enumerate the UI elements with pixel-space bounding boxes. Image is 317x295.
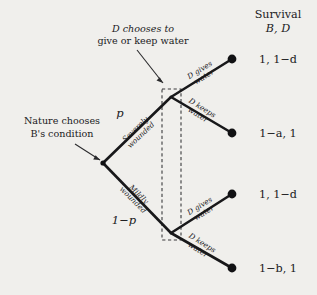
annotation-d-choice-line1: D chooses to xyxy=(111,23,174,34)
payoff-label-1: 1, 1−d xyxy=(259,53,297,66)
branch-label-severely-wounded: Severely wounded xyxy=(120,114,157,150)
terminal-node-2[interactable] xyxy=(228,129,237,138)
root-node-nature[interactable] xyxy=(100,160,105,165)
terminal-node-3[interactable] xyxy=(228,190,237,199)
annotation-nature-line2: B's condition xyxy=(30,128,93,139)
terminal-node-4[interactable] xyxy=(228,264,237,273)
probability-label-upper: p xyxy=(116,106,124,120)
payoff-label-4: 1−b, 1 xyxy=(259,262,297,275)
annotation-d-choice-arrow-head xyxy=(157,77,164,83)
payoff-label-2: 1−a, 1 xyxy=(259,127,296,140)
terminal-node-1[interactable] xyxy=(228,55,237,64)
header-survival-label: Survival xyxy=(255,8,302,21)
game-tree-figure: Survival B, D 1, 1−d 1−a, 1 1, 1−d 1−b, … xyxy=(0,0,317,295)
payoff-label-3: 1, 1−d xyxy=(259,188,297,201)
probability-label-lower: 1−p xyxy=(112,213,137,227)
annotation-d-choice-line2: give or keep water xyxy=(97,35,189,46)
header-players-label: B, D xyxy=(265,22,290,35)
annotation-nature-line1: Nature chooses xyxy=(24,115,100,126)
information-set-box xyxy=(162,89,181,240)
